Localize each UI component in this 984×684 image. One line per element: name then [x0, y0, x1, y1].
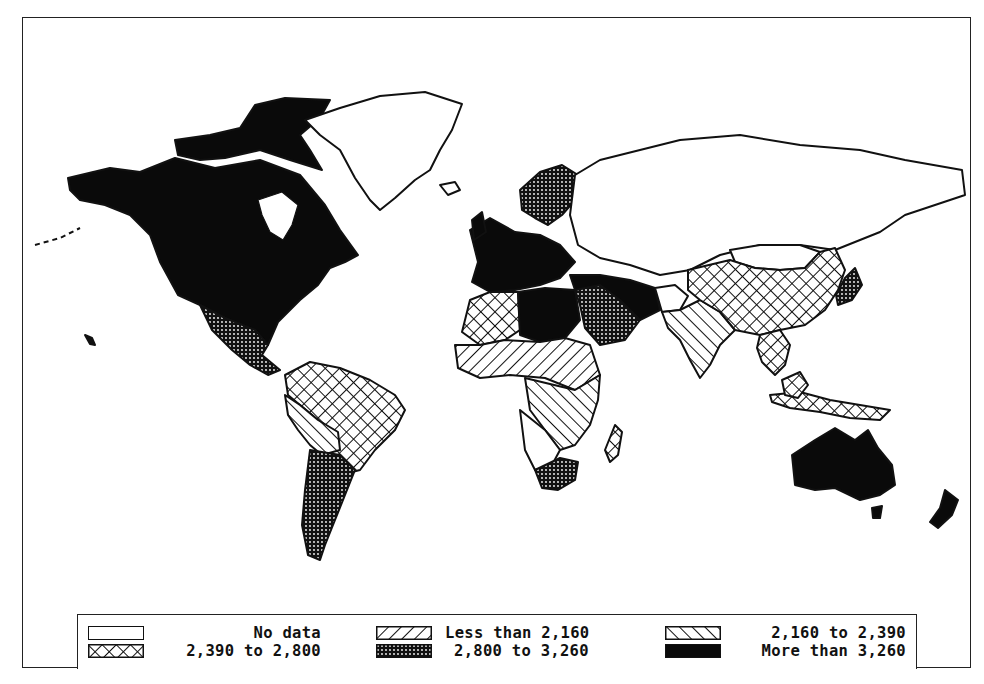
- legend-item-no-data: [88, 625, 144, 641]
- region-argentina-chile: [302, 450, 355, 560]
- legend-item-less-than-2160: [376, 625, 432, 641]
- region-arctic-islands: [175, 98, 330, 170]
- region-southeast-asia: [757, 330, 790, 375]
- island-iceland: [440, 182, 460, 195]
- legend-label-2160-2390: 2,160 to 2,390: [771, 625, 906, 641]
- legend: No data Less than 2,160 2,160 to 2,390 2…: [77, 614, 917, 669]
- legend-item-2390-2800: [88, 643, 144, 659]
- legend-item-2800-3260: [376, 643, 432, 659]
- swatch-diagonal-backward: [665, 626, 721, 640]
- legend-item-2160-2390: [665, 625, 721, 641]
- legend-label-2390-2800: 2,390 to 2,800: [186, 643, 321, 659]
- region-new-zealand: [930, 490, 958, 528]
- legend-label-more-than-3260: More than 3,260: [762, 643, 906, 659]
- legend-label-less-than-2160: Less than 2,160: [445, 625, 589, 641]
- region-north-africa-nw: [462, 292, 520, 345]
- region-madagascar: [605, 425, 622, 462]
- swatch-diagonal-forward: [376, 626, 432, 640]
- swatch-crosshatch: [88, 644, 144, 658]
- region-australia: [792, 428, 895, 500]
- legend-item-more-than-3260: [665, 643, 721, 659]
- region-greenland: [305, 92, 462, 210]
- region-tasmania: [872, 506, 882, 518]
- swatch-no-data: [88, 626, 144, 640]
- island-hawaii: [85, 335, 95, 345]
- world-map: [0, 0, 984, 684]
- region-north-africa-ne: [518, 288, 580, 342]
- legend-label-no-data: No data: [254, 625, 321, 641]
- legend-label-2800-3260: 2,800 to 3,260: [454, 643, 589, 659]
- swatch-solid-black: [665, 644, 721, 658]
- swatch-dense-dots: [376, 644, 432, 658]
- island-aleutians: [35, 228, 80, 245]
